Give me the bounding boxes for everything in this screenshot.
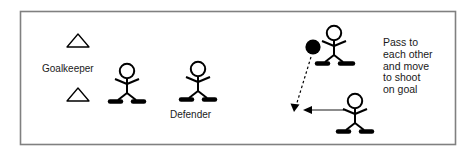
player-head-icon	[327, 26, 341, 40]
instruction-text: Pass to each other and move to shoot on …	[383, 37, 455, 96]
label-defender: Defender	[170, 109, 211, 121]
player-head-icon	[348, 94, 362, 108]
player-head-icon	[120, 64, 134, 78]
player-head-icon	[191, 62, 205, 76]
instruction-line-2: each other	[383, 49, 455, 61]
ball-icon	[305, 39, 320, 54]
label-goalkeeper: Goalkeeper	[42, 63, 94, 75]
diagram-canvas: Goalkeeper Defender Pass to each other a…	[0, 0, 472, 156]
instruction-line-5: on goal	[383, 84, 455, 96]
